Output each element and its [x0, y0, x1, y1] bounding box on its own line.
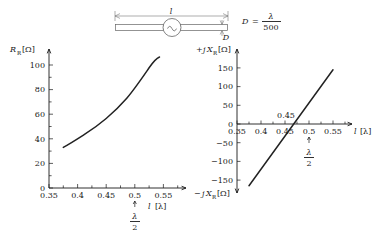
radiation-resistance-curve: [63, 57, 159, 147]
left-chart-xlabel: l [λ]: [148, 202, 166, 211]
length-label: l: [170, 7, 173, 16]
right-xtick-label-05: 0.5: [303, 127, 316, 136]
right-xtick-label-035: 0.35: [228, 127, 246, 136]
left-ytick-label-80: 80: [35, 85, 45, 94]
right-ytick-label-minus-150: −150: [211, 176, 233, 185]
radiation-resistance-chart: R R [Ω] 0 20 40 60 80 100: [9, 45, 186, 232]
left-xlabel-symbol: l: [148, 202, 151, 211]
dipole-right-conductor: [181, 25, 228, 31]
right-ytick-label-100: 100: [218, 82, 233, 91]
right-ylabel-top-unit: [Ω]: [218, 45, 231, 54]
left-xtick-label-035: 0.35: [40, 191, 58, 200]
diameter-label: D: [222, 33, 230, 42]
right-chart-ylabel-bottom: − j X R [Ω]: [194, 189, 230, 200]
right-ytick-label-50: 50: [223, 101, 233, 110]
right-halfwave-numerator: λ: [305, 148, 311, 157]
left-ylabel-symbol: R: [9, 45, 16, 54]
formula-equals-sign: =: [252, 17, 259, 26]
formula-denominator: 500: [263, 23, 278, 32]
diameter-dimension: D: [220, 20, 230, 42]
right-ytick-label-minus-100: −100: [211, 157, 233, 166]
left-ytick-label-60: 60: [35, 110, 45, 119]
right-chart-xlabel: l [λ]: [354, 127, 371, 136]
right-halfwave-denominator: 2: [306, 159, 311, 168]
diameter-formula: D = λ 500: [241, 12, 281, 32]
left-xtick-label-04: 0.4: [71, 191, 84, 200]
left-halfwave-denominator: 2: [132, 223, 137, 232]
left-xtick-label-045: 0.45: [97, 191, 115, 200]
right-xlabel-unit: [λ]: [360, 127, 371, 136]
left-halfwave-arrow-up-icon: [133, 201, 136, 207]
right-xtick-label-04: 0.4: [255, 127, 268, 136]
left-ylabel-unit: [Ω]: [22, 45, 35, 54]
reactance-chart: + j X R [Ω] − j X R [Ω]: [194, 45, 371, 200]
left-ytick-label-20: 20: [35, 159, 45, 168]
right-chart-y-ticks: 0 50 100 150 −50 −100 −150: [211, 64, 240, 185]
ac-source-circle: [163, 19, 181, 37]
formula-lead-symbol: D: [241, 17, 249, 26]
left-chart-ylabel: R R [Ω]: [9, 45, 35, 56]
left-chart-y-ticks: 0 20 40 60 80 100: [30, 61, 53, 193]
left-xtick-label-055: 0.55: [154, 191, 172, 200]
left-chart-x-ticks: 0.35 0.4 0.45 0.5 0.55: [40, 184, 178, 200]
left-xlabel-unit: [λ]: [155, 202, 166, 211]
ac-source-icon: [163, 19, 181, 37]
right-chart-half-wavelength-marker: λ 2: [304, 137, 314, 168]
right-ylabel-bottom-symbol: X: [205, 189, 212, 198]
right-ytick-label-minus-50: −50: [216, 139, 233, 148]
left-ytick-label-40: 40: [35, 135, 45, 144]
dipole-antenna-schematic: l D D = λ 500: [115, 7, 281, 42]
right-ylabel-top-symbol: X: [206, 45, 213, 54]
right-xtick-label-055: 0.55: [324, 127, 342, 136]
left-halfwave-numerator: λ: [131, 212, 137, 221]
left-xtick-label-05: 0.5: [128, 191, 141, 200]
formula-numerator: λ: [267, 12, 273, 21]
left-chart-half-wavelength-marker: λ 2: [130, 201, 140, 232]
right-chart-ylabel-top: + j X R [Ω]: [196, 45, 231, 56]
figure-svg: l D D = λ 500 R: [0, 0, 380, 244]
right-chart-value-label-045: 0.45: [277, 111, 295, 120]
right-ylabel-bottom-sign: −: [194, 189, 201, 198]
right-ylabel-bottom-unit: [Ω]: [217, 189, 230, 198]
right-halfwave-arrow-up-icon: [307, 137, 310, 143]
right-ylabel-bottom-j: j: [200, 189, 205, 198]
right-xlabel-symbol: l: [354, 127, 357, 136]
right-ylabel-top-sign: +: [196, 45, 203, 54]
dipole-left-conductor: [116, 25, 164, 31]
right-ytick-label-150: 150: [218, 64, 233, 73]
left-ytick-label-100: 100: [30, 61, 45, 70]
figure-root: l D D = λ 500 R: [0, 0, 380, 244]
